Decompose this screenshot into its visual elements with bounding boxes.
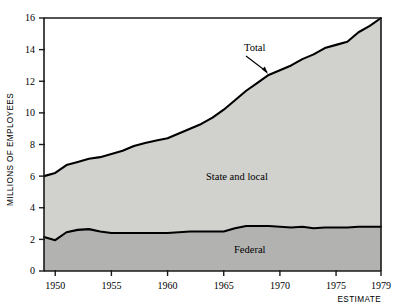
employment-area-chart: 0246810121416 19501955196019651970197519…: [0, 0, 406, 307]
x-tick-label: 1955: [101, 280, 121, 291]
x-tick-label: 1979: [371, 280, 391, 291]
y-tick-label: 10: [25, 107, 35, 118]
y-axis-ticks: 0246810121416: [25, 12, 45, 276]
x-tick-label: 1965: [214, 280, 234, 291]
x-tick-label: 1970: [270, 280, 290, 291]
y-tick-label: 14: [25, 44, 35, 55]
y-tick-label: 2: [30, 234, 35, 245]
area-band-federal: [44, 226, 381, 271]
annotation-state-and-local-label: State and local: [206, 171, 268, 182]
y-tick-label: 4: [30, 202, 35, 213]
chart-figure: 0246810121416 19501955196019651970197519…: [0, 0, 406, 307]
y-tick-label: 8: [30, 139, 35, 150]
x-tick-label: 1960: [158, 280, 178, 291]
y-axis-title: MILLIONS OF EMPLOYEES: [6, 93, 15, 206]
annotation-total-label: Total: [244, 42, 266, 53]
x-axis-ticks: 1950195519601965197019751979: [45, 270, 391, 291]
y-tick-label: 16: [25, 12, 35, 23]
estimate-note: ESTIMATE: [337, 295, 381, 304]
x-tick-label: 1975: [326, 280, 346, 291]
annotation-federal-label: Federal: [234, 244, 266, 255]
y-tick-label: 12: [25, 76, 35, 87]
x-tick-label: 1950: [45, 280, 65, 291]
y-tick-label: 0: [30, 265, 35, 276]
y-tick-label: 6: [30, 171, 35, 182]
